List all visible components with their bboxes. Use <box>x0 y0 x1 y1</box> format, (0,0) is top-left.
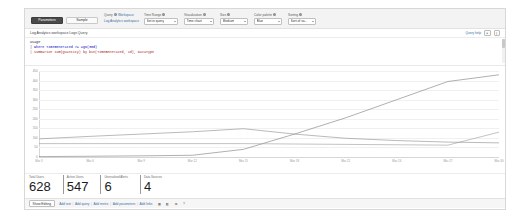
sorting-label: Sorting <box>288 13 298 17</box>
size-dropdown[interactable]: Medium <box>220 18 248 26</box>
group-icon[interactable]: ◧ <box>166 202 170 206</box>
add-link[interactable]: Add parameters <box>111 202 137 206</box>
y-tick-label: 150 <box>33 126 38 130</box>
x-tick-label: Mar 3 <box>35 159 42 163</box>
sorting-group: Sorting i Sort of va... <box>288 13 316 26</box>
time-range-dropdown[interactable]: Set in query <box>144 18 178 26</box>
x-tick-label: Mar 18 <box>290 159 299 163</box>
chart-series-lines <box>39 71 499 157</box>
kql-query-editor[interactable]: Usage | where TimeGenerated >= ago(30d) … <box>25 38 505 66</box>
time-range-label: Time Range <box>144 13 161 17</box>
add-link[interactable]: Add text <box>58 202 73 206</box>
color-palette-label: Color palette <box>254 13 272 17</box>
info-icon[interactable]: i <box>203 13 206 16</box>
kpi-value: 547 <box>67 180 89 194</box>
size-label-row: Size i <box>220 13 248 17</box>
y-tick-label: 50 <box>34 145 37 149</box>
x-tick-label: Mar 30 <box>495 159 504 163</box>
tab-sample-label: Sample <box>76 18 88 22</box>
code-line-3: | summarize sum(Quantity) by bin(TimeGen… <box>30 50 500 55</box>
visualization-value: Time chart <box>187 19 202 23</box>
query-source-label-row: Query i Workspace <box>104 13 138 17</box>
kpi-tile: Active Users547 <box>63 175 89 194</box>
visualization-label-row: Visualization i <box>184 13 214 17</box>
size-label: Size <box>220 13 226 17</box>
query-source-link[interactable]: Workspace <box>118 13 134 17</box>
chevron-down-icon <box>244 21 246 22</box>
query-help-link[interactable]: Query help <box>465 31 481 35</box>
tab-parameters[interactable]: Parameters <box>31 17 63 25</box>
kpi-row: Total Users628Active Users547Unresolved … <box>25 174 505 198</box>
tab-parameters-label: Parameters <box>38 18 56 22</box>
visualization-dropdown[interactable]: Time chart <box>184 18 214 26</box>
query-source-value[interactable]: Log Analytics workspace <box>104 18 138 26</box>
info-icon[interactable]: i <box>299 13 302 16</box>
query-header: Log Analytics workspace Logs Query Query… <box>25 29 505 38</box>
query-source-group: Query i Workspace Log Analytics workspac… <box>104 13 138 26</box>
series-line <box>39 75 499 157</box>
chevron-down-icon <box>278 21 280 22</box>
color-palette-dropdown[interactable]: Blue <box>254 18 282 26</box>
y-tick-label: 200 <box>33 117 38 121</box>
editor-scrollbar-thumb[interactable] <box>502 39 504 48</box>
query-header-actions: Query help ● ⋮ <box>465 30 500 37</box>
info-icon[interactable]: i <box>114 13 117 16</box>
y-tick-label: 400 <box>33 79 38 83</box>
editing-toolbar: Show Editing Add text|Add query|Add metr… <box>25 198 505 208</box>
info-icon[interactable]: i <box>227 13 230 16</box>
y-tick-label: 300 <box>33 98 38 102</box>
time-range-group: Time Range i Set in query <box>144 13 178 26</box>
grid-icon[interactable]: ▦ <box>158 202 162 206</box>
x-tick-label: Mar 12 <box>188 159 197 163</box>
x-tick-label: Mar 27 <box>443 159 452 163</box>
expand-icon[interactable]: ● <box>484 30 491 37</box>
show-editing-button[interactable]: Show Editing <box>29 200 55 207</box>
query-toolbar: Parameters Sample Query i Workspace Log … <box>25 9 505 29</box>
time-range-value: Set in query <box>147 19 165 23</box>
size-group: Size i Medium <box>220 13 248 26</box>
sorting-label-row: Sorting i <box>288 13 316 17</box>
x-tick-label: Mar 15 <box>239 159 248 163</box>
color-palette-group: Color palette i Blue <box>254 13 282 26</box>
x-tick-label: Mar 9 <box>138 159 145 163</box>
visualization-label: Visualization <box>184 13 202 17</box>
x-tick-label: Mar 21 <box>341 159 350 163</box>
color-palette-label-row: Color palette i <box>254 13 282 17</box>
color-palette-value: Blue <box>257 19 264 23</box>
y-tick-label: 250 <box>33 107 38 111</box>
more-icon[interactable]: ⋮ <box>494 30 501 37</box>
add-link[interactable]: Add metric <box>92 202 110 206</box>
chevron-down-icon <box>210 21 212 22</box>
mode-tabs: Parameters Sample <box>31 17 98 26</box>
add-link[interactable]: Add query <box>73 202 91 206</box>
show-editing-label: Show Editing <box>33 202 52 206</box>
kpi-value: 6 <box>104 180 128 194</box>
x-tick-label: Mar 24 <box>392 159 401 163</box>
gridline <box>39 157 499 158</box>
add-content-links: Add text|Add query|Add metric|Add parame… <box>58 202 154 206</box>
add-link[interactable]: Add links <box>138 202 154 206</box>
sorting-dropdown[interactable]: Sort of va... <box>288 18 316 26</box>
kpi-tile: Unresolved Alerts6 <box>100 175 128 194</box>
series-line <box>39 129 499 143</box>
kpi-tile: Total Users628 <box>27 175 51 194</box>
clone-icon[interactable]: ⧉ <box>174 202 178 206</box>
chart-plot-area: 050100150200250300350400450 Mar 3Mar 6Ma… <box>39 71 499 157</box>
y-tick-label: 450 <box>33 69 38 73</box>
workbook-panel: Parameters Sample Query i Workspace Log … <box>24 8 506 210</box>
chevron-down-icon <box>312 21 314 22</box>
info-icon[interactable]: i <box>273 13 276 16</box>
visualization-group: Visualization i Time chart <box>184 13 214 26</box>
tab-sample[interactable]: Sample <box>66 17 98 25</box>
y-tick-label: 100 <box>33 136 38 140</box>
time-range-label-row: Time Range i <box>144 13 178 17</box>
y-tick-label: 350 <box>33 88 38 92</box>
info-icon[interactable]: i <box>162 13 165 16</box>
query-panel-title: Log Analytics workspace Logs Query <box>30 31 87 35</box>
query-group-label: Query <box>104 13 113 17</box>
help-icon[interactable]: ? <box>182 202 186 206</box>
kpi-value: 4 <box>144 180 162 194</box>
size-value: Medium <box>223 19 235 23</box>
chevron-down-icon <box>174 21 176 22</box>
time-chart: 050100150200250300350400450 Mar 3Mar 6Ma… <box>25 66 505 174</box>
